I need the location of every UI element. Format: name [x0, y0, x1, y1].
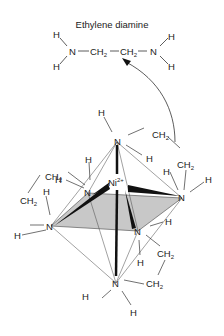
- svg-text:H: H: [130, 307, 137, 318]
- svg-text:H: H: [168, 61, 175, 72]
- svg-text:H: H: [163, 166, 170, 177]
- svg-text:H: H: [14, 230, 21, 241]
- svg-text:H: H: [98, 107, 105, 118]
- svg-text:H: H: [137, 257, 144, 268]
- svg-text:N: N: [46, 221, 53, 232]
- svg-text:H: H: [53, 29, 60, 40]
- diagram-title: Ethylene diamine: [76, 19, 149, 30]
- svg-text:H: H: [53, 61, 60, 72]
- svg-text:CH2: CH2: [177, 159, 195, 171]
- ethylenediamine-labels: H N H CH2 CH2 N H H: [53, 29, 175, 72]
- svg-text:H: H: [85, 154, 92, 165]
- svg-text:H: H: [205, 174, 212, 185]
- svg-text:CH2: CH2: [20, 195, 38, 207]
- svg-text:N: N: [84, 187, 91, 198]
- svg-text:H: H: [82, 291, 89, 302]
- svg-text:CH2: CH2: [152, 129, 170, 141]
- svg-text:N: N: [134, 226, 141, 237]
- svg-text:H: H: [146, 153, 153, 164]
- svg-text:H: H: [43, 186, 50, 197]
- svg-text:H: H: [55, 174, 62, 185]
- svg-text:H: H: [168, 31, 175, 42]
- svg-text:CH2: CH2: [146, 278, 164, 290]
- svg-text:N: N: [178, 192, 185, 203]
- svg-text:N: N: [114, 136, 121, 147]
- svg-text:CH2: CH2: [157, 248, 175, 260]
- svg-text:CH2: CH2: [90, 46, 108, 58]
- svg-text:N: N: [69, 46, 76, 57]
- svg-text:CH2: CH2: [120, 46, 138, 58]
- svg-text:H: H: [165, 216, 172, 227]
- ni-center: Ni2+: [108, 177, 124, 188]
- ni-ethylenediamine-diagram: Ethylene diamine H N H CH2 CH2 N H H: [0, 0, 224, 336]
- svg-text:N: N: [150, 46, 157, 57]
- svg-text:N: N: [112, 278, 119, 289]
